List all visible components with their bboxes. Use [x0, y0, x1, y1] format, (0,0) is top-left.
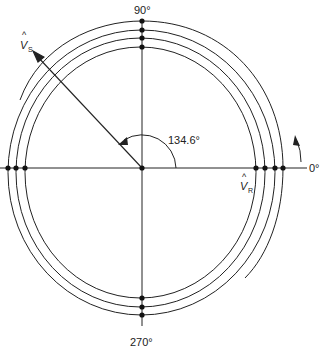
ellipse-1	[25, 47, 256, 298]
label-270: 270°	[130, 336, 153, 348]
rotation-arrowhead-icon	[293, 135, 300, 146]
vs-vector	[36, 55, 142, 168]
dot-left-3	[22, 165, 27, 170]
dot-right-3	[272, 165, 277, 170]
phasor-diagram: 90° 270° 0° 134.6° ^ V S ^ V R	[0, 0, 322, 353]
dot-top-3	[139, 35, 144, 40]
dot-top-1	[139, 18, 144, 23]
label-90: 90°	[134, 4, 151, 16]
dot-top-4	[139, 44, 144, 49]
angle-arc-arrowhead-icon	[118, 137, 128, 145]
ellipse-2	[16, 38, 265, 307]
center-dot	[139, 165, 144, 170]
dot-right-1	[253, 165, 258, 170]
label-0: 0°	[309, 162, 320, 174]
dot-bottom-3	[139, 312, 144, 317]
vs-subscript: S	[28, 46, 33, 53]
vs-arrowhead-icon	[33, 51, 44, 62]
dot-bottom-1	[139, 295, 144, 300]
dot-left-1	[5, 165, 10, 170]
angle-label: 134.6°	[168, 134, 200, 146]
vr-subscript: R	[248, 187, 253, 194]
dot-top-2	[139, 27, 144, 32]
dot-left-2	[13, 165, 18, 170]
dot-bottom-2	[139, 304, 144, 309]
dot-right-2	[262, 165, 267, 170]
dot-right-4	[280, 165, 285, 170]
